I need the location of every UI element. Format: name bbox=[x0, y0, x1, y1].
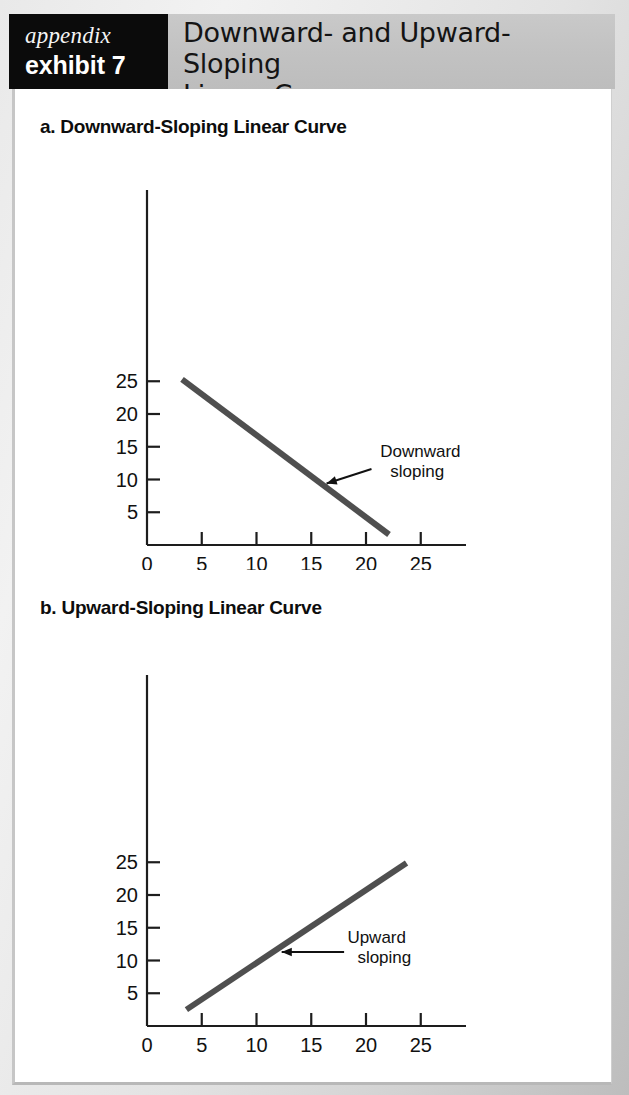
annotation-label-line-2: sloping bbox=[357, 948, 411, 967]
page-title-line-1: Downward- and Upward-Sloping bbox=[183, 17, 603, 79]
chart-downward-sloping: 5101520250510152025Downwardsloping bbox=[0, 170, 629, 570]
y-tick-label: 15 bbox=[116, 436, 138, 458]
x-tick-label: 10 bbox=[245, 553, 267, 570]
y-tick-label: 5 bbox=[127, 982, 138, 1004]
x-tick-label: 0 bbox=[141, 553, 152, 570]
x-tick-label: 15 bbox=[300, 1034, 322, 1056]
annotation-arrow-head bbox=[327, 476, 338, 484]
y-tick-label: 25 bbox=[116, 370, 138, 392]
appendix-kicker: appendix bbox=[25, 21, 168, 50]
annotation-arrow-head bbox=[282, 948, 292, 957]
y-tick-label: 25 bbox=[116, 851, 138, 873]
x-tick-label: 20 bbox=[355, 1034, 377, 1056]
exhibit-tag: appendix exhibit 7 bbox=[9, 14, 168, 89]
exhibit-number: exhibit 7 bbox=[25, 50, 168, 81]
x-tick-label: 25 bbox=[410, 553, 432, 570]
y-tick-label: 20 bbox=[116, 403, 138, 425]
annotation-label-line-1: Upward bbox=[347, 928, 406, 947]
y-tick-label: 10 bbox=[116, 950, 138, 972]
x-tick-label: 15 bbox=[300, 553, 322, 570]
series-line bbox=[182, 379, 389, 534]
x-tick-label: 20 bbox=[355, 553, 377, 570]
x-tick-label: 5 bbox=[196, 1034, 207, 1056]
y-tick-label: 15 bbox=[116, 917, 138, 939]
exhibit-page: appendix exhibit 7 Downward- and Upward-… bbox=[0, 0, 629, 1095]
y-tick-label: 10 bbox=[116, 469, 138, 491]
y-tick-label: 5 bbox=[127, 501, 138, 523]
annotation-label-line-1: Downward bbox=[380, 442, 460, 461]
section-b-label: b. Upward-Sloping Linear Curve bbox=[40, 597, 322, 619]
section-a-label: a. Downward-Sloping Linear Curve bbox=[40, 116, 347, 138]
x-tick-label: 0 bbox=[141, 1034, 152, 1056]
annotation-label-line-2: sloping bbox=[390, 462, 444, 481]
x-tick-label: 10 bbox=[245, 1034, 267, 1056]
x-tick-label: 25 bbox=[410, 1034, 432, 1056]
y-tick-label: 20 bbox=[116, 884, 138, 906]
chart-upward-sloping: 5101520250510152025Upwardsloping bbox=[0, 650, 629, 1070]
x-tick-label: 5 bbox=[196, 553, 207, 570]
